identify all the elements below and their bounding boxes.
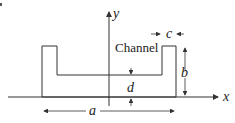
c-label: c [166,26,173,41]
y-axis-label: y [111,6,120,21]
x-axis-label: x [222,89,230,104]
d-label: d [127,80,135,95]
b-label: b [181,65,188,80]
channel-label: Channel [115,40,159,55]
channel-section-diagram: x y Channel c b d a [0,0,235,123]
a-label: a [89,103,96,118]
corner-mark [0,3,2,6]
